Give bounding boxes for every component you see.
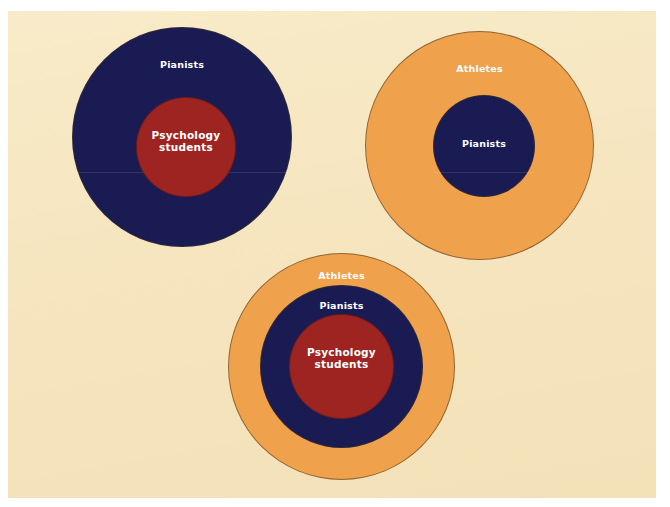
circle-psychology-inner[interactable] bbox=[136, 97, 236, 197]
circle-psychology-inner-3[interactable] bbox=[289, 314, 394, 419]
diagram-pianists-psychology: Pianists Psychology students bbox=[72, 27, 292, 247]
circle-pianists-inner[interactable] bbox=[433, 95, 535, 197]
diagram-athletes-pianists-psychology: Athletes Pianists Psychology students bbox=[228, 253, 455, 480]
figure-canvas: Pianists Psychology students Athletes Pi… bbox=[0, 0, 670, 507]
figure-panel: Pianists Psychology students Athletes Pi… bbox=[8, 11, 656, 498]
diagram-athletes-pianists: Athletes Pianists bbox=[365, 31, 594, 260]
